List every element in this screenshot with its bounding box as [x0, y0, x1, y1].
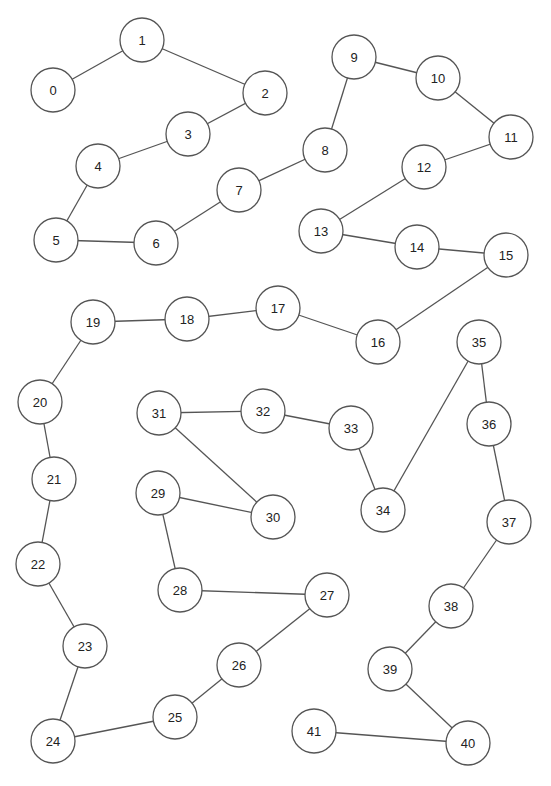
node-5: 5: [34, 218, 78, 262]
node-15: 15: [484, 233, 528, 277]
node-33: 33: [329, 406, 373, 450]
node-label: 4: [94, 159, 101, 174]
node-26: 26: [217, 643, 261, 687]
node-11: 11: [489, 115, 533, 159]
graph-diagram: 0123456789101112131415161718192021222324…: [0, 0, 551, 786]
node-31: 31: [137, 391, 181, 435]
node-29: 29: [136, 471, 180, 515]
node-34: 34: [361, 488, 405, 532]
node-1: 1: [120, 18, 164, 62]
node-label: 34: [376, 503, 390, 518]
node-12: 12: [402, 145, 446, 189]
node-16: 16: [356, 320, 400, 364]
node-label: 0: [49, 83, 56, 98]
node-label: 41: [307, 724, 321, 739]
node-label: 22: [31, 557, 45, 572]
node-3: 3: [166, 112, 210, 156]
node-24: 24: [31, 719, 75, 763]
node-10: 10: [416, 56, 460, 100]
node-label: 17: [271, 301, 285, 316]
node-22: 22: [16, 542, 60, 586]
node-7: 7: [217, 168, 261, 212]
graph-canvas: 0123456789101112131415161718192021222324…: [0, 0, 551, 786]
node-label: 30: [266, 510, 280, 525]
node-28: 28: [158, 568, 202, 612]
node-0: 0: [31, 68, 75, 112]
node-27: 27: [305, 573, 349, 617]
node-label: 15: [499, 248, 513, 263]
edge-34-35: [383, 342, 479, 510]
node-label: 16: [371, 335, 385, 350]
node-label: 35: [472, 335, 486, 350]
node-40: 40: [446, 721, 490, 765]
edge-40-41: [314, 731, 468, 743]
node-label: 29: [151, 486, 165, 501]
node-label: 2: [261, 86, 268, 101]
node-label: 9: [350, 50, 357, 65]
node-14: 14: [395, 225, 439, 269]
node-label: 18: [180, 312, 194, 327]
node-label: 19: [86, 315, 100, 330]
node-18: 18: [165, 297, 209, 341]
nodes-layer: 0123456789101112131415161718192021222324…: [16, 18, 533, 765]
node-label: 21: [47, 472, 61, 487]
node-6: 6: [134, 221, 178, 265]
node-label: 23: [78, 639, 92, 654]
node-label: 7: [235, 183, 242, 198]
node-23: 23: [63, 624, 107, 668]
node-label: 1: [138, 33, 145, 48]
node-label: 33: [344, 421, 358, 436]
node-35: 35: [457, 320, 501, 364]
node-label: 36: [482, 417, 496, 432]
node-9: 9: [332, 35, 376, 79]
node-label: 40: [461, 736, 475, 751]
node-label: 31: [152, 406, 166, 421]
node-37: 37: [487, 500, 531, 544]
node-13: 13: [299, 209, 343, 253]
node-label: 38: [444, 599, 458, 614]
node-label: 37: [502, 515, 516, 530]
node-label: 24: [46, 734, 60, 749]
node-label: 27: [320, 588, 334, 603]
node-label: 20: [33, 395, 47, 410]
node-label: 13: [314, 224, 328, 239]
node-19: 19: [71, 300, 115, 344]
node-38: 38: [429, 584, 473, 628]
node-25: 25: [153, 695, 197, 739]
node-8: 8: [303, 128, 347, 172]
node-label: 25: [168, 710, 182, 725]
node-label: 32: [256, 404, 270, 419]
node-label: 28: [173, 583, 187, 598]
node-label: 6: [152, 236, 159, 251]
node-label: 14: [410, 240, 424, 255]
node-17: 17: [256, 286, 300, 330]
node-21: 21: [32, 457, 76, 501]
node-label: 5: [52, 233, 59, 248]
node-label: 11: [504, 130, 518, 145]
node-30: 30: [251, 495, 295, 539]
node-41: 41: [292, 709, 336, 753]
node-2: 2: [243, 71, 287, 115]
node-32: 32: [241, 389, 285, 433]
node-36: 36: [467, 402, 511, 446]
node-label: 39: [383, 662, 397, 677]
node-label: 10: [431, 71, 445, 86]
node-label: 26: [232, 658, 246, 673]
node-39: 39: [368, 647, 412, 691]
node-label: 12: [417, 160, 431, 175]
node-20: 20: [18, 380, 62, 424]
node-label: 8: [321, 143, 328, 158]
node-label: 3: [184, 127, 191, 142]
node-4: 4: [76, 144, 120, 188]
